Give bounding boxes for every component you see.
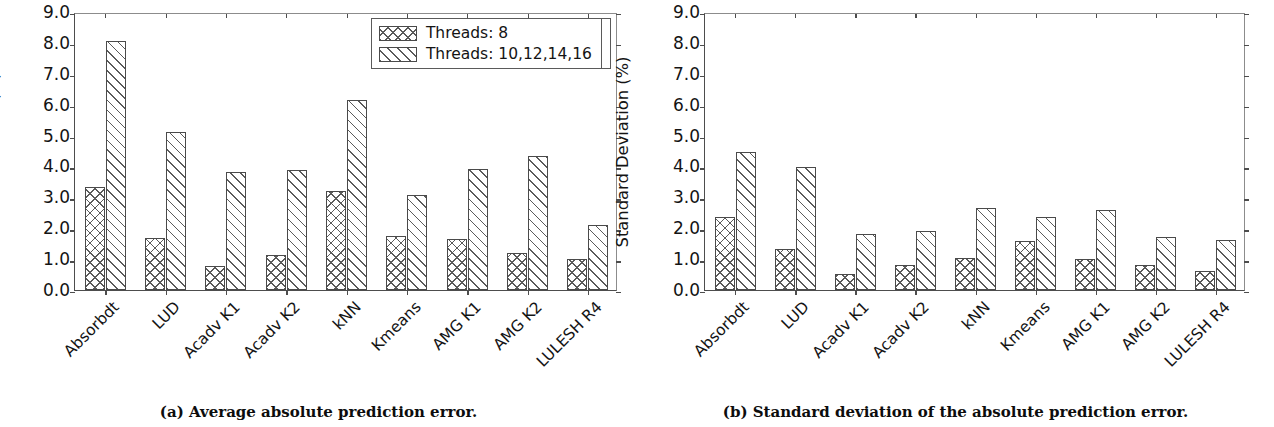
y-tick-mark (70, 138, 75, 139)
y-tick-mark-right (616, 261, 621, 262)
x-tick-mark-top (976, 14, 977, 18)
y-tick-mark (700, 76, 705, 77)
y-tick-mark (70, 261, 75, 262)
x-tick-mark-top (226, 14, 227, 18)
x-tick-mark-top (1216, 14, 1217, 18)
x-tick-mark (1096, 290, 1097, 295)
x-tick-mark (347, 290, 348, 295)
y-tick-mark-right (1244, 45, 1249, 46)
y-tick-mark-right (1244, 230, 1249, 231)
y-tick-label: 6.0 (673, 97, 700, 114)
bar (407, 195, 427, 290)
y-tick-label: 0.0 (43, 282, 70, 299)
y-tick-label: 9.0 (673, 4, 700, 21)
bar (287, 170, 307, 290)
y-tick-label: 3.0 (43, 189, 70, 206)
y-tick-label: 8.0 (43, 35, 70, 52)
y-tick-mark (700, 138, 705, 139)
bar (916, 231, 936, 290)
x-tick-mark (105, 290, 106, 295)
bar (386, 236, 406, 290)
figure-two-panel-bar-charts: Prediction Error (%) 0.01.02.03.04.05.06… (0, 0, 1274, 427)
bar (447, 239, 467, 290)
bar (588, 225, 608, 290)
y-tick-mark-right (1244, 138, 1249, 139)
y-axis-title-b: Standard Deviation (%) (613, 57, 632, 248)
bar (895, 265, 915, 290)
y-tick-label: 7.0 (43, 66, 70, 83)
y-tick-mark (700, 199, 705, 200)
bar (796, 167, 816, 290)
x-tick-mark (795, 290, 796, 295)
bar (1216, 240, 1236, 290)
x-tick-mark-top (915, 14, 916, 18)
x-tick-mark-top (105, 14, 106, 18)
legend-label-threads-multi: Threads: 10,12,14,16 (426, 45, 592, 63)
x-tick-mark-top (1036, 14, 1037, 18)
bar (1036, 217, 1056, 290)
y-tick-mark-right (1244, 199, 1249, 200)
x-tick-mark (588, 290, 589, 295)
bar (775, 249, 795, 290)
bar (145, 238, 165, 291)
y-tick-mark (700, 230, 705, 231)
x-tick-mark (855, 290, 856, 295)
bar (326, 191, 346, 290)
x-tick-mark-top (1096, 14, 1097, 18)
x-tick-mark (1216, 290, 1217, 295)
y-tick-mark-right (1244, 292, 1249, 293)
y-tick-mark-right (1244, 168, 1249, 169)
legend-label-threads-8: Threads: 8 (426, 24, 508, 42)
bar (1075, 259, 1095, 290)
x-tick-mark-top (855, 14, 856, 18)
caption-b: (b) Standard deviation of the absolute p… (637, 403, 1274, 421)
y-tick-mark (70, 168, 75, 169)
y-tick-label: 5.0 (43, 128, 70, 145)
y-tick-mark (70, 292, 75, 293)
bar (715, 217, 735, 291)
y-tick-label: 5.0 (673, 128, 700, 145)
x-tick-mark-top (735, 14, 736, 18)
y-tick-mark-right (616, 45, 621, 46)
bar (85, 187, 105, 290)
x-tick-mark-top (347, 14, 348, 18)
bar (166, 132, 186, 290)
y-tick-mark (700, 14, 705, 15)
y-tick-label: 0.0 (673, 282, 700, 299)
bar (955, 258, 975, 290)
bar (1135, 265, 1155, 290)
bar (1195, 271, 1215, 290)
x-tick-mark (915, 290, 916, 295)
bar (567, 259, 587, 291)
x-tick-mark (166, 290, 167, 295)
x-tick-mark (467, 290, 468, 295)
y-axis-title-a: Prediction Error (%) (0, 72, 2, 231)
x-tick-mark (1036, 290, 1037, 295)
bar (976, 208, 996, 290)
bar (528, 156, 548, 290)
y-tick-mark-right (1244, 107, 1249, 108)
y-tick-label: 4.0 (43, 158, 70, 175)
chart-panel-b: Standard Deviation (%) 0.01.02.03.04.05.… (637, 0, 1274, 427)
bar (347, 100, 367, 290)
plot-area-b: Standard Deviation (%) 0.01.02.03.04.05.… (637, 0, 1274, 375)
bar (266, 255, 286, 290)
bar (736, 152, 756, 290)
y-tick-mark (70, 230, 75, 231)
y-tick-label: 4.0 (673, 158, 700, 175)
x-tick-mark (976, 290, 977, 295)
y-tick-label: 8.0 (673, 35, 700, 52)
y-tick-mark (70, 76, 75, 77)
legend-entry-threads-multi: Threads: 10,12,14,16 (379, 45, 592, 63)
y-tick-mark (70, 107, 75, 108)
y-tick-mark (70, 199, 75, 200)
bar (106, 41, 126, 290)
y-tick-mark-right (1244, 14, 1249, 15)
caption-a: (a) Average absolute prediction error. (0, 403, 637, 421)
y-tick-label: 1.0 (673, 251, 700, 268)
y-tick-mark (700, 168, 705, 169)
x-tick-mark (226, 290, 227, 295)
y-tick-label: 9.0 (43, 4, 70, 21)
bar (468, 169, 488, 290)
bar (1156, 237, 1176, 290)
